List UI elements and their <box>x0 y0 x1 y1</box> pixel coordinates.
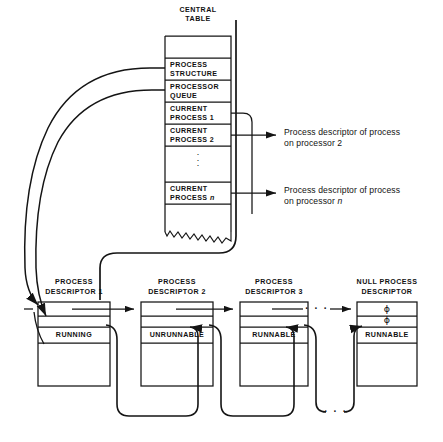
central-row-current-process-1-line2: PROCESS 1 <box>170 114 230 122</box>
chain-ellipsis-bottom: · · · <box>322 406 350 418</box>
central-row-current-process-2-line1: CURRENT <box>170 127 230 135</box>
chain-ellipsis-top: · · · <box>303 303 331 315</box>
central-row-current-process-1-line1: CURRENT <box>170 105 230 113</box>
descriptor-2-status: UNRUNNABLE <box>141 331 213 339</box>
connector-tail-sweep <box>34 312 44 344</box>
backlink-null-to-d3 <box>304 325 362 412</box>
central-row-current-process-n-line2: PROCESS n <box>170 194 230 202</box>
descriptor-box-2 <box>141 302 213 386</box>
central-row-process-structure-line2: STRUCTURE <box>170 70 230 78</box>
descriptor-2-caption-line2: DESCRIPTOR 2 <box>137 288 217 296</box>
descriptor-null-caption-line2: DESCRIPTOR <box>347 288 427 296</box>
descriptor-box-1 <box>38 302 110 386</box>
annotation-processor-2-line2: on processor 2 <box>284 138 442 150</box>
diagram-canvas: CENTRAL TABLE PROCESS STRUCTURE PROCESSO… <box>0 0 443 442</box>
descriptor-3-status: RUNNABLE <box>240 331 308 339</box>
annotation-processor-n-line2: on processor n <box>284 196 442 208</box>
central-row-current-process-2-line2: PROCESS 2 <box>170 136 230 144</box>
descriptor-box-3 <box>240 302 308 386</box>
annotation-processor-2-line1: Process descriptor of process <box>284 127 442 139</box>
descriptor-3-caption-line2: DESCRIPTOR 3 <box>236 288 312 296</box>
descriptor-null-caption-line1: NULL PROCESS <box>347 278 427 286</box>
central-row-vertical-ellipsis: ··· <box>165 152 231 169</box>
annotation-processor-n-line1: Process descriptor of process <box>284 185 442 197</box>
central-row-processor-queue-line2: QUEUE <box>170 92 230 100</box>
central-table-caption-line2: TABLE <box>160 15 236 23</box>
descriptor-null-status: RUNNABLE <box>357 331 417 339</box>
central-row-process-structure-line1: PROCESS <box>170 61 230 69</box>
descriptor-3-caption-line1: PROCESS <box>240 278 308 286</box>
central-table-caption-line1: CENTRAL <box>160 6 236 14</box>
descriptor-1-caption-line2: DESCRIPTOR 1 <box>34 288 114 296</box>
central-row-processor-queue-line1: PROCESSOR <box>170 83 230 91</box>
descriptor-1-status: RUNNING <box>38 331 110 339</box>
descriptor-2-caption-line1: PROCESS <box>141 278 213 286</box>
central-row-current-process-n-line1: CURRENT <box>170 185 230 193</box>
descriptor-1-caption-line1: PROCESS <box>38 278 110 286</box>
connector-current-process-1 <box>231 113 252 214</box>
descriptor-null-field-second: ϕ <box>357 315 417 326</box>
